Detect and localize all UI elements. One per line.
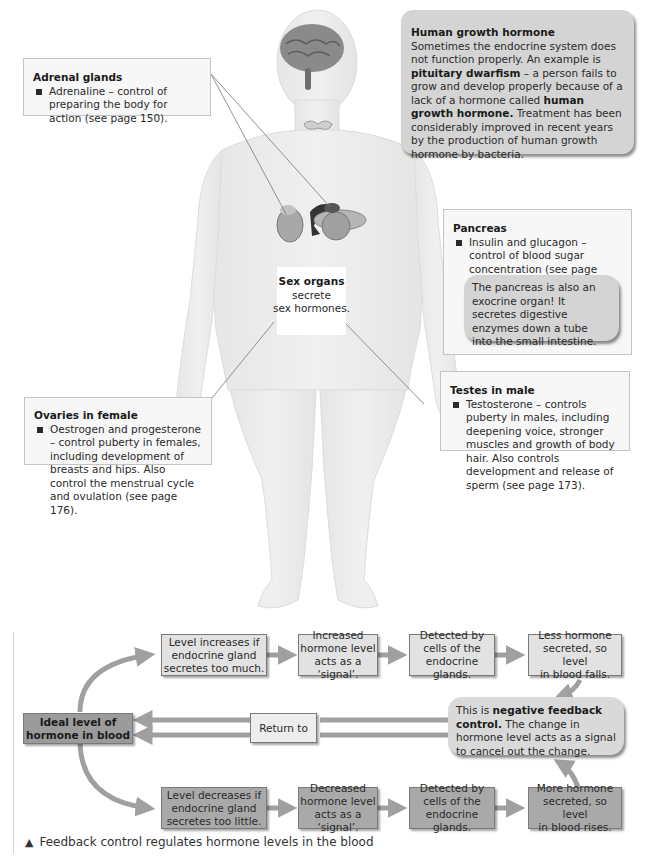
flow-bottom-step-3: Detected by cells of the endocrine gland… bbox=[409, 787, 495, 829]
bullet-icon bbox=[37, 427, 43, 433]
flow-bottom-step-4: More hormone secreted, so level in blood… bbox=[528, 787, 622, 829]
sex-organs-line2: sex hormones. bbox=[271, 302, 352, 316]
testes-box: Testes in male Testosterone – controls p… bbox=[440, 371, 630, 451]
ovaries-title: Ovaries in female bbox=[34, 409, 205, 423]
sex-organs-line1: secrete bbox=[277, 289, 346, 303]
adrenal-bullet: Adrenaline – control of preparing the bo… bbox=[49, 85, 202, 126]
pancreas-title: Pancreas bbox=[453, 222, 623, 236]
bullet-icon bbox=[36, 89, 42, 95]
flow-top-step-2: Increased hormone level acts as a ‘signa… bbox=[298, 634, 378, 676]
flow-top-step-1: Level increases if endocrine gland secre… bbox=[161, 634, 267, 676]
sex-organs-title: Sex organs bbox=[277, 275, 346, 289]
testes-title: Testes in male bbox=[450, 384, 623, 398]
hgh-text: Sometimes the endocrine system does not … bbox=[411, 40, 624, 162]
ovaries-box: Ovaries in female Oestrogen and progeste… bbox=[24, 397, 212, 465]
adrenal-glands-box: Adrenal glands Adrenaline – control of p… bbox=[23, 58, 211, 116]
pancreas-exocrine-note: The pancreas is also an exocrine organ! … bbox=[464, 275, 619, 341]
figure-caption: ▲Feedback control regulates hormone leve… bbox=[25, 835, 374, 849]
flow-top-step-4: Less hormone secreted, so level in blood… bbox=[528, 634, 622, 676]
ideal-level-box: Ideal level of hormone in blood bbox=[23, 713, 133, 744]
caption-text: Feedback control regulates hormone level… bbox=[39, 835, 373, 849]
negative-feedback-note: This is negative feedback control. The c… bbox=[448, 697, 624, 755]
sex-organs-label: Sex organs secrete sex hormones. bbox=[277, 267, 346, 335]
return-to-box: Return to bbox=[250, 713, 317, 743]
flow-bottom-step-2: Decreased hormone level acts as a ‘signa… bbox=[298, 787, 378, 829]
triangle-marker-icon: ▲ bbox=[25, 836, 33, 849]
hgh-title: Human growth hormone bbox=[411, 26, 624, 40]
human-growth-hormone-box: Human growth hormone Sometimes the endoc… bbox=[401, 10, 634, 154]
ovaries-bullet: Oestrogen and progesterone – control pub… bbox=[50, 423, 205, 518]
testes-bullet: Testosterone – controls puberty in males… bbox=[466, 398, 623, 493]
bullet-icon bbox=[453, 402, 459, 408]
adrenal-title: Adrenal glands bbox=[33, 71, 202, 85]
bullet-icon bbox=[456, 240, 462, 246]
flow-top-step-3: Detected by cells of the endocrine gland… bbox=[409, 634, 495, 676]
flow-bottom-step-1: Level decreases if endocrine gland secre… bbox=[161, 787, 267, 829]
